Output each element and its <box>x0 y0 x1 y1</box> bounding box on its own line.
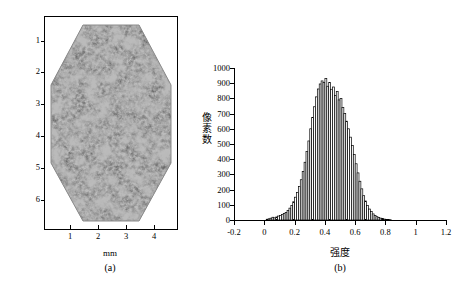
histogram-ytick-label: 200 <box>196 185 230 195</box>
histogram-xtick-label: 0.8 <box>380 227 391 237</box>
histogram-xtick-label: -0.2 <box>227 227 240 237</box>
histogram-ytick-mark <box>230 159 234 160</box>
histogram-xtick-mark <box>325 221 326 225</box>
histogram-ytick-label: 600 <box>196 124 230 134</box>
histogram-xtick-mark <box>446 221 447 225</box>
histogram-ytick-label: 0 <box>196 215 230 225</box>
panel-a-ytick-mark-4 <box>41 136 45 137</box>
panel-a-caption: (a) <box>44 262 176 273</box>
histogram-xtick-mark <box>355 221 356 225</box>
panel-a-ytick-6: 6 <box>26 194 40 204</box>
panel-a-ytick-5: 5 <box>26 162 40 172</box>
histogram-ytick-mark <box>230 144 234 145</box>
panel-a-ytick-1: 1 <box>26 35 40 45</box>
histogram-xtick-label: 0.6 <box>350 227 361 237</box>
histogram-ytick-mark <box>230 114 234 115</box>
histogram-xtick-mark <box>385 221 386 225</box>
panel-a-xaxis-label: mm <box>44 248 176 258</box>
histogram-ytick-mark <box>230 98 234 99</box>
panel-a-xtick-mark-3 <box>126 225 127 229</box>
panel-b: 像素数 01002003004005006007008009001000 -0.… <box>196 0 467 284</box>
panel-a-xtick-1: 1 <box>62 231 78 241</box>
histogram-ytick-mark <box>230 68 234 69</box>
histogram-xtick-mark <box>416 221 417 225</box>
panel-a-ytick-mark-6 <box>41 200 45 201</box>
panel-a-ytick-3: 3 <box>26 98 40 108</box>
panel-a-ytick-mark-3 <box>41 104 45 105</box>
histogram-ytick-label: 900 <box>196 78 230 88</box>
histogram-ytick-label: 700 <box>196 109 230 119</box>
panel-a-ytick-mark-5 <box>41 168 45 169</box>
panel-a: 1 2 3 4 5 6 1 2 3 4 mm (a) <box>0 0 200 284</box>
panel-a-xtick-4: 4 <box>146 231 162 241</box>
histogram-ytick-label: 800 <box>196 93 230 103</box>
histogram-plot-area <box>234 68 447 221</box>
panel-a-ytick-4: 4 <box>26 130 40 140</box>
histogram-xtick-label: 0.2 <box>289 227 300 237</box>
panel-a-xtick-mark-1 <box>70 225 71 229</box>
panel-a-ytick-mark-1 <box>41 41 45 42</box>
panel-a-ytick-2: 2 <box>26 66 40 76</box>
histogram-xaxis-label: 强度 <box>234 244 446 259</box>
panel-a-xtick-mark-4 <box>154 225 155 229</box>
histogram-ytick-mark <box>230 129 234 130</box>
histogram-xtick-label: 0 <box>262 227 266 237</box>
panel-a-ytick-mark-2 <box>41 72 45 73</box>
histogram-xtick-label: 1.2 <box>441 227 452 237</box>
panel-a-xtick-3: 3 <box>118 231 134 241</box>
histogram-ytick-mark <box>230 174 234 175</box>
histogram-xtick-label: 0.4 <box>320 227 331 237</box>
panel-a-xtick-mark-2 <box>98 225 99 229</box>
histogram-xtick-mark <box>264 221 265 225</box>
histogram-ytick-label: 100 <box>196 200 230 210</box>
figure-root: 1 2 3 4 5 6 1 2 3 4 mm (a) 像素数 0 <box>0 0 467 284</box>
histogram-bars <box>235 68 447 220</box>
histogram-ytick-mark <box>230 205 234 206</box>
histogram-xtick-label: 1 <box>414 227 418 237</box>
panel-a-xtick-2: 2 <box>90 231 106 241</box>
histogram-ytick-label: 300 <box>196 169 230 179</box>
panel-b-caption: (b) <box>234 262 446 273</box>
histogram-ytick-label: 400 <box>196 154 230 164</box>
histogram-ytick-mark <box>230 83 234 84</box>
histogram-xtick-mark <box>295 221 296 225</box>
speckle-pattern-image <box>49 23 173 223</box>
speckle-image-frame <box>44 16 178 230</box>
histogram-ytick-label: 1000 <box>196 63 230 73</box>
histogram-ytick-label: 500 <box>196 139 230 149</box>
histogram-xtick-mark <box>234 221 235 225</box>
histogram-ytick-mark <box>230 190 234 191</box>
